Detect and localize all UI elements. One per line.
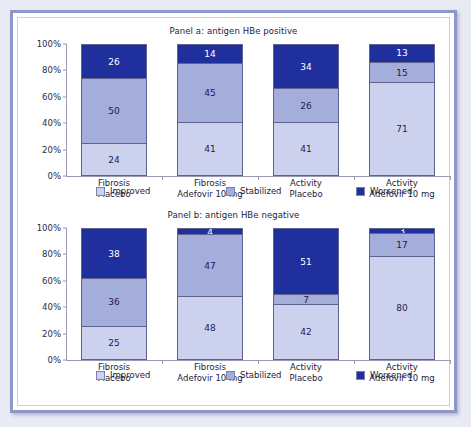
panel-a-segment-improved: 24 <box>82 144 146 175</box>
panel-a-ytick-label: 20% <box>26 145 66 155</box>
panel-b-segment-improved: 48 <box>178 297 242 359</box>
panel-a-xtick-mark <box>354 176 355 180</box>
panel-b-segment-stabilized: 47 <box>178 234 242 297</box>
panel-a-segment-worsened: 13 <box>370 45 434 62</box>
panel-a-xtick-mark <box>450 176 451 180</box>
panel-b-segment-improved: 42 <box>274 305 338 359</box>
panel-a-legend-item-improved[interactable]: Improved <box>96 186 150 196</box>
panel-b-segment-worsened: 38 <box>82 229 146 278</box>
panel-a-bar-group: 265024FibrosisPlacebo <box>66 44 162 176</box>
panel-b-legend-item-stabilized[interactable]: Stabilized <box>226 370 282 380</box>
legend-label-improved: Improved <box>110 186 150 196</box>
panel-b-ytick-label: 60% <box>26 276 66 286</box>
panel-b-xtick-mark <box>450 360 451 364</box>
panel-a-segment-stabilized: 50 <box>82 78 146 144</box>
panel-a-ytick-label: 60% <box>26 92 66 102</box>
panel-b-bar-group: 44748FibrosisAdefovir 10 mg <box>162 228 258 360</box>
panel-a-legend-item-worsened[interactable]: Worsened <box>356 186 412 196</box>
panel-a-legend: ImprovedStabilizedWorsened <box>66 186 450 200</box>
panel-b-bar-group: 383625FibrosisPlacebo <box>66 228 162 360</box>
panel-a-stacked-bar[interactable]: 144541 <box>177 44 243 176</box>
panel-b-xtick-mark <box>258 360 259 364</box>
panel-b-xtick-mark <box>162 360 163 364</box>
legend-swatch-worsened-icon <box>356 187 365 196</box>
panel-b-legend-item-improved[interactable]: Improved <box>96 370 150 380</box>
panel-b-stacked-bar[interactable]: 383625 <box>81 228 147 360</box>
panel-b-ytick-label: 20% <box>26 329 66 339</box>
panel-a-xtick-mark <box>162 176 163 180</box>
panel-b-legend-item-worsened[interactable]: Worsened <box>356 370 412 380</box>
panel-a-segment-improved: 41 <box>178 123 242 175</box>
panel-a-xtick-mark <box>258 176 259 180</box>
panel-a-stacked-bar[interactable]: 131571 <box>369 44 435 176</box>
panel-a-bar-group: 144541FibrosisAdefovir 10 mg <box>162 44 258 176</box>
panel-b-ytick-label: 100% <box>26 223 66 233</box>
panel-b-segment-improved: 25 <box>82 327 146 359</box>
panel-b-stacked-bar[interactable]: 51742 <box>273 228 339 360</box>
panel-a-title: Panel a: antigen HBe positive <box>18 26 449 36</box>
panel-b-segment-worsened: 51 <box>274 229 338 294</box>
panel-a-segment-stabilized: 26 <box>274 88 338 123</box>
panel-b-segment-improved: 80 <box>370 257 434 359</box>
legend-label-stabilized: Stabilized <box>240 186 282 196</box>
panel-a-ytick-label: 100% <box>26 39 66 49</box>
panel-a-bar-group: 342641ActivityPlacebo <box>258 44 354 176</box>
panel-a-bar-group: 131571ActivityAdefovir 10 mg <box>354 44 450 176</box>
panel-a-ytick-label: 80% <box>26 65 66 75</box>
panel-b-plot-area: 0%20%40%60%80%100%383625FibrosisPlacebo4… <box>66 228 450 360</box>
legend-swatch-improved-icon <box>96 371 105 380</box>
panel-a: Panel a: antigen HBe positive 0%20%40%60… <box>18 26 449 211</box>
legend-label-worsened: Worsened <box>370 370 412 380</box>
panel-a-ytick-label: 0% <box>26 171 66 181</box>
panel-b-bar-group: 31780ActivityAdefovir 10 mg <box>354 228 450 360</box>
panel-b-legend: ImprovedStabilizedWorsened <box>66 370 450 384</box>
panel-a-segment-improved: 41 <box>274 123 338 175</box>
legend-swatch-stabilized-icon <box>226 187 235 196</box>
panel-b-title: Panel b: antigen HBe negative <box>18 210 449 220</box>
panel-b-bar-group: 51742ActivityPlacebo <box>258 228 354 360</box>
panel-a-stacked-bar[interactable]: 342641 <box>273 44 339 176</box>
panel-a-segment-improved: 71 <box>370 83 434 175</box>
legend-swatch-improved-icon <box>96 187 105 196</box>
legend-label-worsened: Worsened <box>370 186 412 196</box>
panel-b-ytick-label: 0% <box>26 355 66 365</box>
legend-swatch-worsened-icon <box>356 371 365 380</box>
panel-a-legend-item-stabilized[interactable]: Stabilized <box>226 186 282 196</box>
panel-b-stacked-bar[interactable]: 44748 <box>177 228 243 360</box>
figure-frame: Panel a: antigen HBe positive 0%20%40%60… <box>10 10 457 413</box>
panel-a-segment-worsened: 26 <box>82 45 146 78</box>
panel-b-xtick-mark <box>354 360 355 364</box>
panel-b-segment-stabilized: 17 <box>370 233 434 257</box>
panel-b-stacked-bar[interactable]: 31780 <box>369 228 435 360</box>
panel-a-plot-area: 0%20%40%60%80%100%265024FibrosisPlacebo1… <box>66 44 450 176</box>
panel-a-segment-stabilized: 45 <box>178 63 242 123</box>
panel-b-ytick-label: 40% <box>26 302 66 312</box>
legend-label-stabilized: Stabilized <box>240 370 282 380</box>
panel-b-ytick-label: 80% <box>26 249 66 259</box>
panel-b-segment-stabilized: 7 <box>274 294 338 305</box>
panel-b-segment-stabilized: 36 <box>82 278 146 327</box>
panel-a-segment-stabilized: 15 <box>370 62 434 83</box>
panel-a-stacked-bar[interactable]: 265024 <box>81 44 147 176</box>
legend-label-improved: Improved <box>110 370 150 380</box>
panel-a-segment-worsened: 34 <box>274 45 338 88</box>
panel-a-segment-worsened: 14 <box>178 45 242 63</box>
panel-b: Panel b: antigen HBe negative 0%20%40%60… <box>18 210 449 395</box>
legend-swatch-stabilized-icon <box>226 371 235 380</box>
figure-inner: Panel a: antigen HBe positive 0%20%40%60… <box>17 17 450 406</box>
panel-a-ytick-label: 40% <box>26 118 66 128</box>
